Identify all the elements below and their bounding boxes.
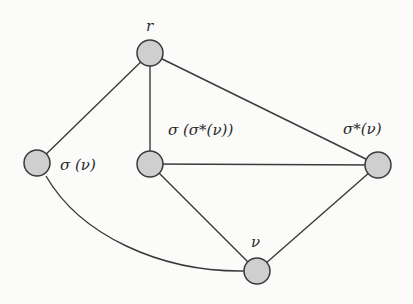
node-sigma-sigma-star-v [137, 151, 163, 177]
edge-sigma-sigma-star-v-v [150, 164, 257, 271]
node-sigma-v [24, 150, 50, 176]
label-r: r [146, 17, 154, 35]
label-v: ν [251, 233, 260, 251]
graph-diagram: r σ (ν) σ (σ*(ν)) σ*(ν) ν [0, 0, 413, 304]
edge-sigma-v-v-curved [46, 176, 244, 271]
label-sigma-sigma-star-v: σ (σ*(ν)) [168, 121, 233, 139]
edge-sigma-star-v-v [257, 165, 378, 271]
label-sigma-v: σ (ν) [60, 156, 96, 174]
edge-r-sigma-star-v [150, 53, 378, 165]
label-sigma-star-v: σ*(ν) [343, 120, 382, 138]
node-r [137, 40, 163, 66]
edge-sigma-sigma-star-v-sigma-star-v [150, 164, 378, 165]
edge-r-sigma-v [37, 53, 150, 163]
node-sigma-star-v [365, 152, 391, 178]
node-v [244, 258, 270, 284]
